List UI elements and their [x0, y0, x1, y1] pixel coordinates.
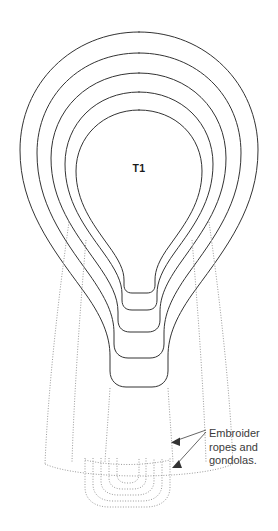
gondola-ring-4 — [93, 458, 162, 501]
balloon-contour-inner-1 — [76, 110, 202, 293]
balloon-contour-2 — [65, 92, 213, 310]
leader-line-lower — [176, 432, 206, 465]
annotation-line-2: ropes and — [209, 441, 278, 455]
envelope-dotted-left-outer — [45, 222, 69, 464]
arrowhead-upper-icon — [171, 438, 180, 447]
gondola-top-edge — [85, 460, 170, 465]
gondola-group — [85, 458, 170, 507]
gondola-ring-2 — [109, 458, 146, 489]
solid-contour-group — [20, 32, 258, 387]
balloon-pattern-figure: T1 Embroider ropes and gondolas. — [0, 0, 278, 531]
annotation-leaders — [171, 430, 206, 468]
envelope-dotted-left-inner — [72, 240, 86, 462]
balloon-contour-outer-5 — [20, 32, 258, 387]
gondola-ring-1 — [117, 458, 139, 483]
balloon-contour-4 — [37, 53, 241, 358]
envelope-guide-right — [168, 388, 173, 462]
dotted-envelope-group — [45, 222, 233, 476]
arrowhead-lower-icon — [172, 460, 182, 468]
annotation-note: Embroider ropes and gondolas. — [209, 427, 278, 468]
annotation-line-1: Embroider — [209, 427, 278, 441]
envelope-dotted-right-inner — [192, 240, 206, 462]
tier-label-t1: T1 — [132, 162, 145, 174]
envelope-guide-left — [105, 388, 110, 462]
annotation-line-3: gondolas. — [209, 454, 278, 468]
